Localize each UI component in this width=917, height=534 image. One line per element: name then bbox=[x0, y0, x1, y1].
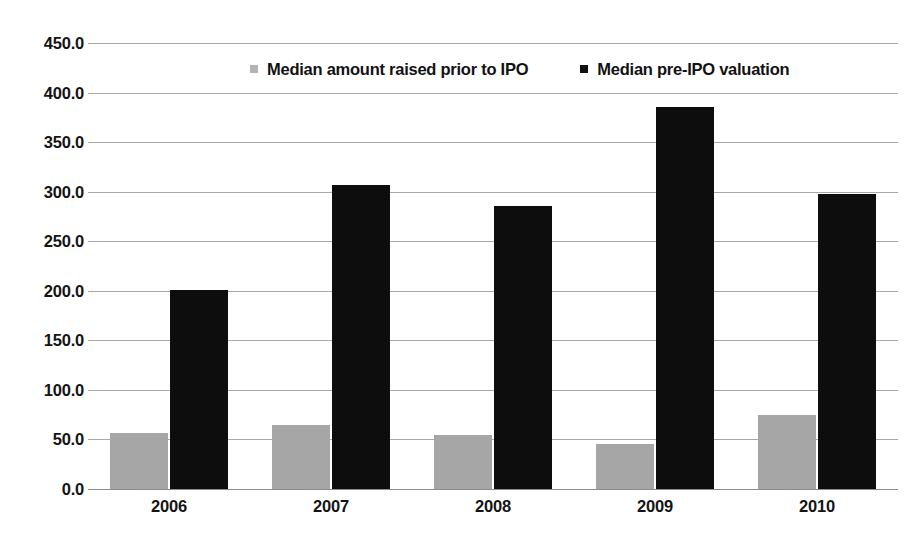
y-axis-tick-label: 200.0 bbox=[8, 283, 84, 300]
x-axis: 20062007200820092010 bbox=[88, 492, 898, 526]
legend-swatch-icon bbox=[250, 65, 258, 73]
bar-2007-series-0[interactable] bbox=[272, 425, 330, 489]
y-axis-tick-label: 250.0 bbox=[8, 233, 84, 250]
bar-group-2009 bbox=[574, 43, 736, 489]
gridline bbox=[88, 489, 898, 490]
y-axis-tick-label: 150.0 bbox=[8, 332, 84, 349]
legend-entry-median-amount-raised[interactable]: Median amount raised prior to IPO bbox=[250, 61, 528, 78]
bar-2010-series-0[interactable] bbox=[758, 415, 816, 489]
bar-group-2007 bbox=[250, 43, 412, 489]
x-axis-tick-label: 2007 bbox=[250, 498, 412, 515]
chart-legend: Median amount raised prior to IPO Median… bbox=[250, 57, 789, 81]
bar-2006-series-0[interactable] bbox=[110, 433, 168, 489]
bar-group-2008 bbox=[412, 43, 574, 489]
y-axis-tick-label: 350.0 bbox=[8, 134, 84, 151]
bar-2009-series-1[interactable] bbox=[656, 107, 714, 489]
x-axis-tick-label: 2010 bbox=[736, 498, 898, 515]
x-axis-tick-label: 2008 bbox=[412, 498, 574, 515]
y-axis-tick-label: 400.0 bbox=[8, 84, 84, 101]
y-axis-tick-label: 450.0 bbox=[8, 35, 84, 52]
bar-2008-series-0[interactable] bbox=[434, 435, 492, 490]
legend-swatch-icon bbox=[580, 65, 588, 73]
y-axis-tick-label: 100.0 bbox=[8, 382, 84, 399]
bar-2009-series-0[interactable] bbox=[596, 444, 654, 489]
bar-group-2010 bbox=[736, 43, 898, 489]
y-axis-tick-label: 50.0 bbox=[8, 431, 84, 448]
y-axis: 0.050.0100.0150.0200.0250.0300.0350.0400… bbox=[0, 43, 84, 489]
legend-label: Median pre-IPO valuation bbox=[597, 61, 789, 78]
bar-chart: 0.050.0100.0150.0200.0250.0300.0350.0400… bbox=[0, 0, 917, 534]
y-axis-tick-label: 0.0 bbox=[8, 481, 84, 498]
plot-area bbox=[88, 43, 898, 489]
legend-entry-median-pre-ipo-valuation[interactable]: Median pre-IPO valuation bbox=[580, 61, 789, 78]
bar-2007-series-1[interactable] bbox=[332, 185, 390, 489]
bar-2008-series-1[interactable] bbox=[494, 206, 552, 489]
bar-2006-series-1[interactable] bbox=[170, 290, 228, 489]
bar-groups bbox=[88, 43, 898, 489]
y-axis-tick-label: 300.0 bbox=[8, 183, 84, 200]
x-axis-tick-label: 2006 bbox=[88, 498, 250, 515]
x-axis-tick-label: 2009 bbox=[574, 498, 736, 515]
bar-2010-series-1[interactable] bbox=[818, 194, 876, 489]
bar-group-2006 bbox=[88, 43, 250, 489]
legend-label: Median amount raised prior to IPO bbox=[267, 61, 528, 78]
